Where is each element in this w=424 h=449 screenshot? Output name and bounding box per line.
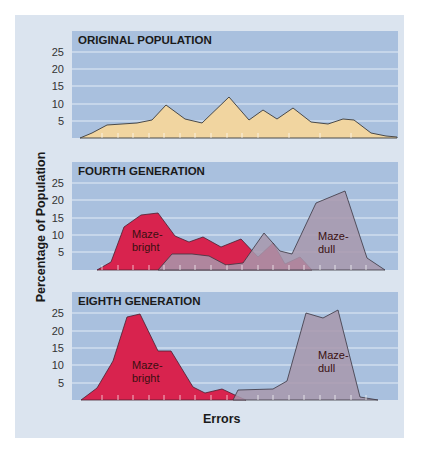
svg-text:20: 20 [52, 325, 64, 337]
maze-bright-label: Maze- [132, 228, 163, 240]
svg-text:5: 5 [58, 377, 64, 389]
svg-text:20: 20 [52, 63, 64, 75]
maze-bright-label: bright [132, 372, 160, 384]
svg-text:25: 25 [52, 177, 64, 189]
panel-title: EIGHTH GENERATION [78, 295, 200, 307]
y-ticks: 25 20 15 10 5 [52, 46, 64, 127]
svg-text:15: 15 [52, 212, 64, 224]
svg-text:5: 5 [58, 115, 64, 127]
maze-bright-label: bright [132, 241, 160, 253]
panel-original-population: ORIGINAL POPULATION 25 20 15 10 5 [52, 31, 398, 138]
maze-dull-label: Maze- [318, 230, 349, 242]
y-ticks: 25 20 15 10 5 [52, 177, 64, 258]
svg-text:15: 15 [52, 342, 64, 354]
chart-svg: ORIGINAL POPULATION 25 20 15 10 5 FOURTH… [0, 0, 424, 449]
maze-dull-label: dull [318, 243, 335, 255]
maze-dull-label: dull [318, 362, 335, 374]
panel-eighth-generation: EIGHTH GENERATION 25 20 15 10 5 Maze- br… [52, 292, 398, 400]
svg-text:15: 15 [52, 80, 64, 92]
svg-text:25: 25 [52, 307, 64, 319]
panel-title: ORIGINAL POPULATION [78, 34, 212, 46]
svg-text:10: 10 [52, 359, 64, 371]
maze-dull-label: Maze- [318, 349, 349, 361]
svg-text:10: 10 [52, 98, 64, 110]
svg-text:20: 20 [52, 194, 64, 206]
svg-text:5: 5 [58, 246, 64, 258]
panel-fourth-generation: FOURTH GENERATION 25 20 15 10 5 Maze- br… [52, 162, 398, 270]
svg-text:25: 25 [52, 46, 64, 58]
x-axis-label: Errors [203, 412, 241, 426]
svg-text:10: 10 [52, 229, 64, 241]
panel-title: FOURTH GENERATION [78, 165, 205, 177]
maze-bright-label: Maze- [132, 359, 163, 371]
y-ticks: 25 20 15 10 5 [52, 307, 64, 389]
